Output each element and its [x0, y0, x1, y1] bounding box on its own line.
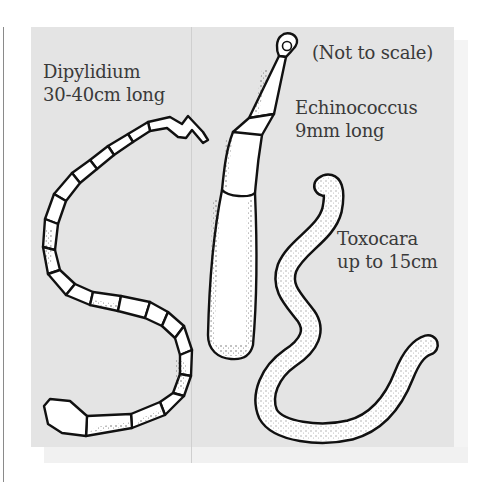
toxocara-size: up to 15cm: [337, 250, 438, 273]
note-text: (Not to scale): [312, 41, 433, 64]
toxocara-name: Toxocara: [337, 227, 438, 250]
dipylidium-size: 30-40cm long: [43, 83, 165, 106]
echinococcus-size: 9mm long: [295, 119, 418, 142]
note-not-to-scale: (Not to scale): [312, 41, 433, 64]
label-toxocara: Toxocara up to 15cm: [337, 227, 438, 273]
label-dipylidium: Dipylidium 30-40cm long: [43, 60, 165, 106]
echinococcus-drawing: [208, 33, 297, 359]
echinococcus-name: Echinococcus: [295, 96, 418, 119]
label-echinococcus: Echinococcus 9mm long: [295, 96, 418, 142]
dipylidium-name: Dipylidium: [43, 60, 165, 83]
toxocara-drawing: [265, 184, 428, 433]
